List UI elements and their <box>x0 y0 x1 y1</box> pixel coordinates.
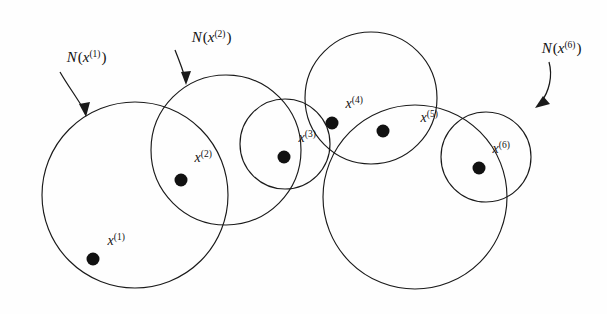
leader-arrow-n-x2 <box>175 50 191 85</box>
data-point-dot-x5 <box>377 125 390 138</box>
diagram-canvas: N(x(1)) N(x(2)) N(x(6)) x(1) x(2) <box>0 0 607 314</box>
data-point-label-x4-superscript: (4) <box>352 95 363 106</box>
data-point-dot-x2 <box>175 174 188 187</box>
neighborhood-label-1-close-paren: ) <box>102 49 107 66</box>
neighborhood-label-2: N(x(2)) <box>158 29 258 46</box>
data-point-label-x2-superscript: (2) <box>201 149 212 160</box>
neighborhood-circle-5 <box>323 105 507 289</box>
data-point-dot-x3 <box>278 151 291 164</box>
data-point-label-x1: x(1) <box>76 228 149 248</box>
neighborhood-label-6-close-paren: ) <box>577 40 582 57</box>
leader-arrow-n-x6 <box>535 62 551 108</box>
neighborhood-circle-6 <box>441 112 531 202</box>
neighborhood-label-2-superscript: (2) <box>214 29 225 40</box>
neighborhood-label-6-base: N <box>541 40 553 56</box>
data-point-dot-x6 <box>473 162 486 175</box>
data-point-label-x6-superscript: (6) <box>499 140 510 151</box>
neighborhood-label-1-superscript: (1) <box>89 49 100 60</box>
data-point-label-x1-superscript: (1) <box>114 232 125 243</box>
neighborhood-label-6-superscript: (6) <box>564 40 575 51</box>
neighborhood-label-6: N(x(6)) <box>508 40 607 57</box>
data-point-dot-x1 <box>87 253 100 266</box>
neighborhood-label-1-base: N <box>66 49 78 65</box>
leader-arrow-n-x1 <box>60 72 90 117</box>
data-point-label-group: x(1) x(2) x(3) x(4) x(5) x(6) <box>76 91 534 248</box>
data-point-label-x3: x(3) <box>267 125 340 145</box>
neighborhood-label-2-base: N <box>191 29 203 45</box>
data-point-label-x6: x(6) <box>461 136 534 156</box>
data-point-label-x5: x(5) <box>389 105 462 125</box>
neighborhood-circle-1 <box>42 102 228 288</box>
neighborhood-diagram-figure: N(x(1)) N(x(2)) N(x(6)) x(1) x(2) <box>0 0 607 314</box>
data-point-label-x2: x(2) <box>163 145 236 165</box>
neighborhood-label-1: N(x(1)) <box>33 49 133 66</box>
neighborhood-label-group: N(x(1)) N(x(2)) N(x(6)) <box>33 29 607 66</box>
data-point-label-x4: x(4) <box>314 91 387 111</box>
data-point-label-x3-superscript: (3) <box>305 129 316 140</box>
data-point-label-x5-superscript: (5) <box>427 109 438 120</box>
neighborhood-label-2-close-paren: ) <box>227 29 232 46</box>
